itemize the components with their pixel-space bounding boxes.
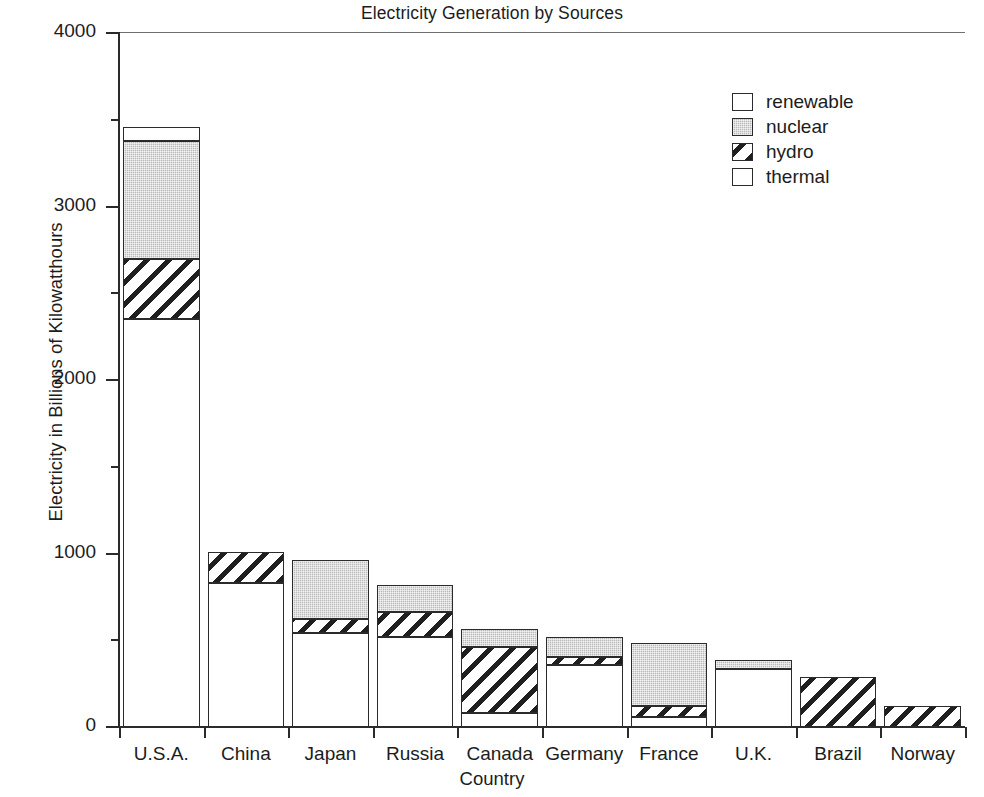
x-tick-label: Japan [288,743,373,765]
legend-swatch-hydro-icon [732,143,753,161]
chart-legend: renewablenuclearhydrothermal [732,90,854,190]
bar-group[interactable] [292,33,369,727]
legend-swatch-renewable-icon [732,93,753,111]
bar-segment-nuclear[interactable] [461,629,538,647]
legend-label: nuclear [766,116,828,138]
bar-segment-hydro[interactable] [123,259,200,320]
y-tick-label: 4000 [54,20,96,42]
x-tick [542,727,544,738]
bar-segment-thermal[interactable] [631,717,708,727]
bar-segment-nuclear[interactable] [631,643,708,706]
y-tick-minor [111,466,119,468]
bar-segment-hydro[interactable] [461,647,538,713]
y-tick-label: 2000 [54,367,96,389]
bar-segment-hydro[interactable] [800,677,877,727]
bar-group[interactable] [123,33,200,727]
bar-segment-hydro[interactable] [208,552,285,583]
bar-group[interactable] [208,33,285,727]
x-tick-label: Brazil [796,743,881,765]
y-tick-label: 0 [85,714,96,736]
y-tick-label: 1000 [54,541,96,563]
y-tick-major [106,379,119,381]
bar-group[interactable] [546,33,623,727]
x-tick [711,727,713,738]
y-tick-major [106,726,119,728]
y-tick-minor [111,119,119,121]
y-tick-major [106,553,119,555]
x-tick [457,727,459,738]
x-tick [880,727,882,738]
x-tick [965,727,967,738]
legend-item-nuclear[interactable]: nuclear [732,115,854,139]
legend-label: renewable [766,91,854,113]
bar-segment-hydro[interactable] [631,706,708,717]
legend-label: thermal [766,166,829,188]
x-tick [373,727,375,738]
x-axis-title: Country [0,768,984,790]
x-tick-label: France [627,743,712,765]
x-tick [627,727,629,738]
x-tick-label: Germany [542,743,627,765]
bar-segment-thermal[interactable] [461,713,538,727]
bar-segment-nuclear[interactable] [123,141,200,259]
bar-group[interactable] [377,33,454,727]
bar-segment-hydro[interactable] [377,612,454,637]
bar-group[interactable] [461,33,538,727]
bar-segment-thermal[interactable] [715,669,792,727]
chart-title: Electricity Generation by Sources [0,3,984,24]
bar-segment-hydro[interactable] [884,706,961,727]
x-tick [204,727,206,738]
legend-swatch-thermal-icon [732,168,753,186]
legend-label: hydro [766,141,814,163]
legend-item-thermal[interactable]: thermal [732,165,854,189]
x-tick-label: Canada [457,743,542,765]
y-tick-minor [111,292,119,294]
x-tick [288,727,290,738]
legend-swatch-nuclear-icon [732,118,753,136]
bar-segment-thermal[interactable] [292,633,369,727]
bar-segment-hydro[interactable] [292,619,369,633]
legend-item-hydro[interactable]: hydro [732,140,854,164]
y-tick-label: 3000 [54,194,96,216]
y-tick-major [106,206,119,208]
x-tick [796,727,798,738]
bar-segment-hydro[interactable] [546,657,623,665]
bar-segment-nuclear[interactable] [546,637,623,657]
x-tick-label: China [204,743,289,765]
bar-segment-nuclear[interactable] [715,660,792,669]
bar-segment-renewable[interactable] [123,127,200,141]
bar-group[interactable] [884,33,961,727]
x-tick-label: U.S.A. [119,743,204,765]
x-tick [119,727,121,738]
legend-item-renewable[interactable]: renewable [732,90,854,114]
bar-segment-nuclear[interactable] [292,560,369,619]
y-tick-minor [111,639,119,641]
bar-segment-thermal[interactable] [546,665,623,727]
bar-segment-thermal[interactable] [123,319,200,727]
x-tick-label: U.K. [711,743,796,765]
x-tick-label: Norway [880,743,965,765]
bar-group[interactable] [631,33,708,727]
y-tick-major [106,32,119,34]
bar-segment-thermal[interactable] [377,637,454,727]
bar-segment-thermal[interactable] [208,583,285,727]
bar-segment-nuclear[interactable] [377,585,454,612]
x-tick-label: Russia [373,743,458,765]
chart-container: Electricity Generation by Sources Electr… [0,0,984,797]
